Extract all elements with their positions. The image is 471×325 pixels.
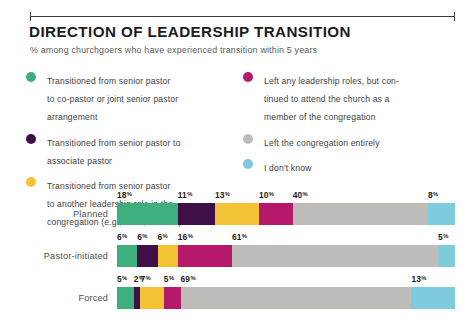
segment-value: 18: [117, 190, 127, 200]
segment-value-label: 16%: [178, 232, 193, 242]
bar-segment: [411, 287, 455, 309]
bar-segment: [438, 245, 455, 267]
segment-value: 11: [178, 190, 187, 200]
segment-value-label: 13%: [411, 274, 426, 284]
bar-segment: [117, 287, 134, 309]
percent-symbol: %: [188, 233, 193, 239]
segment-value-label: 5%: [117, 274, 127, 284]
row-category-label: Planned: [0, 209, 108, 219]
segment-value: 13: [411, 274, 421, 284]
percent-symbol: %: [163, 233, 168, 239]
percent-symbol: %: [127, 191, 132, 197]
percent-symbol: %: [421, 275, 426, 281]
percent-symbol: %: [187, 191, 192, 197]
row-category-label: Pastor-initiated: [0, 251, 108, 261]
segment-value-label: 6%: [117, 232, 127, 242]
row-value-labels: 18%11%13%10%40%8%: [117, 190, 471, 201]
bar-segment: [137, 245, 157, 267]
segment-value-label: 10%: [259, 190, 274, 200]
percent-symbol: %: [303, 191, 308, 197]
percent-symbol: %: [269, 191, 274, 197]
bar-segment: [293, 203, 428, 225]
segment-value-label: 6%: [137, 232, 147, 242]
segment-value-label: 5%: [164, 274, 174, 284]
bar-segment: [232, 245, 438, 267]
bar-segment: [178, 203, 215, 225]
segment-value-label: 40%: [293, 190, 308, 200]
percent-symbol: %: [443, 233, 448, 239]
percent-symbol: %: [433, 191, 438, 197]
percent-symbol: %: [145, 275, 150, 281]
segment-value: 16: [178, 232, 188, 242]
segment-value: 8: [428, 190, 433, 200]
percent-symbol: %: [142, 233, 147, 239]
segment-value: 2: [134, 274, 139, 284]
segment-value: 6: [158, 232, 163, 242]
segment-value: 5: [164, 274, 169, 284]
percent-symbol: %: [169, 275, 174, 281]
segment-value: 69: [181, 274, 191, 284]
bar-segment: [140, 287, 163, 309]
bar-segment: [181, 287, 412, 309]
segment-value-label: 11%: [178, 190, 193, 200]
segment-value-label: 18%: [117, 190, 132, 200]
segment-value: 61: [232, 232, 242, 242]
segment-value-label: 8%: [428, 190, 438, 200]
bar-segment: [158, 245, 178, 267]
bar-segment: [134, 287, 141, 309]
row-category-label: Forced: [0, 293, 108, 303]
bar-segment: [164, 287, 181, 309]
bar-segment: [117, 245, 137, 267]
segment-value-label: 7%: [140, 274, 150, 284]
segment-value: 40: [293, 190, 303, 200]
bar-segment: [215, 203, 259, 225]
bar-segment: [428, 203, 455, 225]
bar-segment: [259, 203, 293, 225]
bar-segment: [117, 203, 178, 225]
row-value-labels: 5%2%7%5%69%13%: [117, 274, 471, 285]
segment-value-label: 13%: [215, 190, 230, 200]
segment-value-label: 69%: [181, 274, 196, 284]
segment-value: 10: [259, 190, 269, 200]
row-value-labels: 6%6%6%16%61%5%: [117, 232, 471, 243]
stacked-bar: [117, 245, 455, 267]
segment-value: 13: [215, 190, 225, 200]
stacked-bar: [117, 287, 455, 309]
segment-value-label: 5%: [438, 232, 448, 242]
percent-symbol: %: [190, 275, 195, 281]
percent-symbol: %: [122, 233, 127, 239]
stacked-bar-chart: 18%11%13%10%40%8%Planned6%6%6%16%61%5%Pa…: [0, 0, 471, 325]
percent-symbol: %: [225, 191, 230, 197]
percent-symbol: %: [122, 275, 127, 281]
segment-value-label: 61%: [232, 232, 247, 242]
segment-value-label: 6%: [158, 232, 168, 242]
bar-segment: [178, 245, 232, 267]
stacked-bar: [117, 203, 455, 225]
percent-symbol: %: [242, 233, 247, 239]
